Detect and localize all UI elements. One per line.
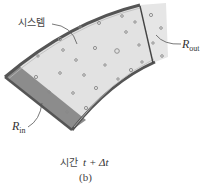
r-out-label: Rout (182, 38, 200, 53)
system-label: 시스템 (18, 18, 45, 28)
control-volume-diagram: 시스템 Rout Rin 시간 t + Δt (b) (0, 0, 201, 185)
r-in-subscript: in (19, 126, 25, 135)
r-in-leader-line (28, 103, 42, 127)
panel-label: (b) (79, 172, 92, 183)
r-in-label: Rin (12, 120, 26, 135)
time-caption: 시간 t + Δt (60, 153, 109, 169)
time-expression: t + Δt (83, 156, 109, 168)
time-prefix: 시간 (60, 157, 78, 168)
r-out-subscript: out (189, 44, 199, 53)
